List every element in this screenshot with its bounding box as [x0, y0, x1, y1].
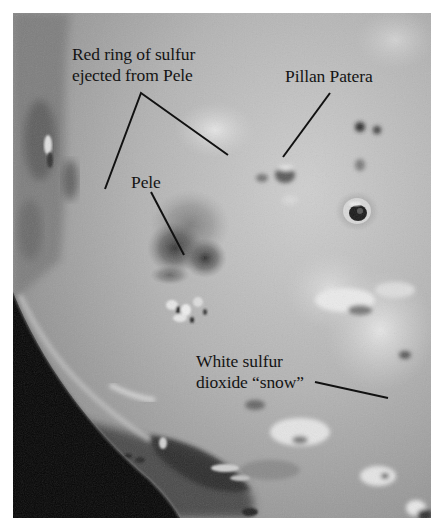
- label-snow-line-1: White sulfur: [196, 351, 304, 372]
- label-pele-line-1: Pele: [131, 172, 161, 193]
- label-pele: Pele: [131, 172, 161, 193]
- label-white-sulfur-dioxide-snow: White sulfur dioxide “snow”: [196, 351, 304, 393]
- label-snow-line-2: dioxide “snow”: [196, 372, 304, 393]
- label-red-ring: Red ring of sulfur ejected from Pele: [72, 44, 195, 86]
- io-surface-photo: [13, 13, 431, 518]
- io-surface-art: [13, 13, 431, 518]
- label-red-ring-line-1: Red ring of sulfur: [72, 44, 195, 65]
- label-pillan-patera: Pillan Patera: [285, 66, 373, 87]
- label-pillan-line-1: Pillan Patera: [285, 66, 373, 87]
- label-red-ring-line-2: ejected from Pele: [72, 65, 195, 86]
